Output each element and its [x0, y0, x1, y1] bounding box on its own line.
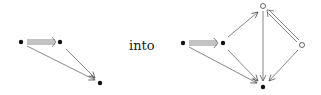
arrow-b-c: [228, 50, 258, 81]
triple-arrow-a-b: [189, 38, 218, 48]
left-diagram: [19, 37, 102, 85]
arrow-a-c: [189, 47, 257, 83]
arrow-b-t: [228, 12, 258, 37]
node-filled-icon: [181, 41, 185, 45]
diagram-canvas: [0, 0, 321, 95]
arrow-b-c: [66, 49, 95, 78]
node-filled-icon: [221, 41, 225, 45]
arrow-r-c: [269, 50, 298, 81]
node-filled-icon: [261, 85, 265, 89]
node-filled-icon: [19, 40, 23, 44]
node-filled-icon: [98, 81, 102, 85]
right-diagram: [181, 4, 305, 90]
node-hollow-icon: [300, 43, 305, 48]
node-hollow-icon: [261, 4, 266, 9]
double-arrow-r-t: [267, 10, 299, 42]
arrow-a-c: [27, 46, 95, 80]
connector-text: into: [129, 38, 155, 53]
triple-arrow-a-b: [27, 37, 56, 47]
node-filled-icon: [58, 40, 62, 44]
